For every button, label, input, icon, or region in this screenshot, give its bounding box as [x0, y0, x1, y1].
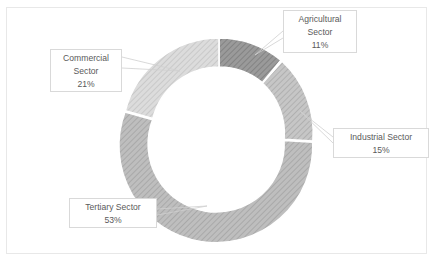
data-label-tertiary-line1: Tertiary Sector: [73, 201, 153, 214]
chart-canvas: Agricultural Sector 11% Commercial Secto…: [0, 0, 436, 271]
data-label-agricultural-value: 11%: [287, 39, 353, 52]
data-label-industrial: Industrial Sector 15%: [333, 128, 429, 158]
data-label-tertiary: Tertiary Sector 53%: [69, 198, 157, 228]
data-label-commercial: Commercial Sector 21%: [50, 49, 122, 92]
data-label-industrial-value: 15%: [337, 144, 425, 157]
data-label-commercial-line1: Commercial: [54, 52, 118, 65]
data-label-commercial-value: 21%: [54, 78, 118, 91]
data-label-agricultural-line1: Agricultural: [287, 13, 353, 26]
data-label-commercial-line2: Sector: [54, 65, 118, 78]
data-label-agricultural: Agricultural Sector 11%: [283, 10, 357, 53]
data-label-industrial-line1: Industrial Sector: [337, 131, 425, 144]
data-label-agricultural-line2: Sector: [287, 26, 353, 39]
data-label-tertiary-value: 53%: [73, 214, 153, 227]
slice-commercial: [125, 38, 219, 119]
